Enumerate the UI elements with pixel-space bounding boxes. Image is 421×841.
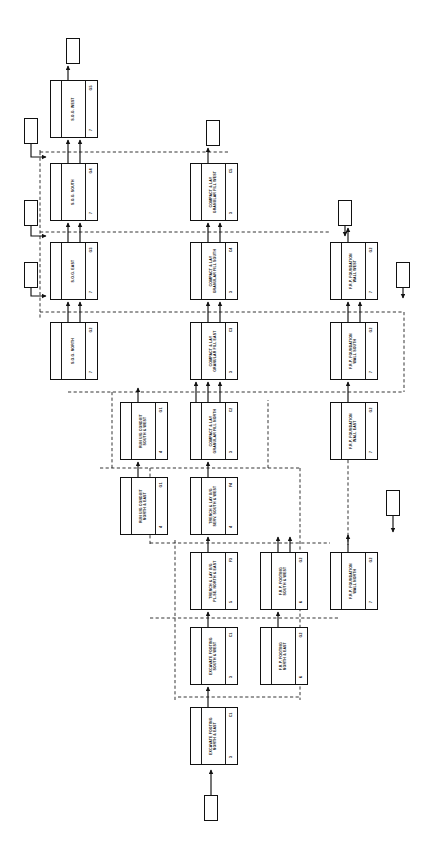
activity-description: TRENCH & LAY U/G SERV. SOUTH & WEST — [201, 478, 225, 534]
activity-node[interactable]: COMPACT & LAY GRANULAR FILL NORTH C2 3 — [190, 402, 238, 460]
activity-node[interactable]: TRENCH & LAY U/G SERV. SOUTH & WEST F4 4 — [190, 477, 238, 535]
activity-duration: 3 — [225, 444, 237, 459]
milestone-node[interactable] — [24, 200, 38, 226]
activity-description: RUN U/G CONDUIT NORTH & EAST — [131, 478, 155, 534]
activity-description: RUN U/G CONDUIT SOUTH & WEST — [131, 403, 155, 459]
activity-node[interactable]: F.R.P. FOUNDATION WALL SOUTH G2 7 — [330, 322, 378, 380]
activity-code: G1 — [155, 403, 167, 418]
activity-duration: 7 — [365, 364, 377, 379]
activity-duration: 7 — [85, 364, 97, 379]
activity-code: C1 — [225, 708, 237, 723]
milestone-node[interactable] — [66, 38, 80, 64]
activity-duration: 5 — [225, 594, 237, 609]
activity-code: C1 — [225, 628, 237, 643]
activity-description: COMPACT & LAY GRANULAR FILL EAST — [201, 323, 225, 379]
activity-node[interactable]: RUN U/G CONDUIT SOUTH & WEST G1 4 — [120, 402, 168, 460]
activity-duration: 3 — [225, 669, 237, 684]
activity-description: F.R.P. FOUNDATION WALL SOUTH — [341, 323, 365, 379]
activity-code: G1 — [155, 478, 167, 493]
activity-duration: 7 — [365, 444, 377, 459]
activity-code: G2 — [295, 628, 307, 643]
activity-description: S.O.G. EAST — [61, 243, 85, 299]
activity-node[interactable]: F.R.P. FOUNDATION WALL EAST G2 7 — [330, 402, 378, 460]
activity-code: G5 — [85, 81, 97, 96]
activity-duration: 4 — [155, 519, 167, 534]
activity-code: G2 — [85, 323, 97, 338]
activity-code: F4 — [225, 478, 237, 493]
milestone-node[interactable] — [24, 262, 38, 288]
activity-duration: 3 — [225, 364, 237, 379]
activity-description: F.R.P. FOOTING SOUTH & WEST — [271, 553, 295, 609]
activity-duration: 6 — [295, 669, 307, 684]
activity-code: G2 — [365, 553, 377, 568]
activity-code: C2 — [225, 403, 237, 418]
activity-node[interactable]: F.R.P. FOOTING SOUTH & WEST G2 6 — [260, 552, 308, 610]
activity-code: G2 — [365, 403, 377, 418]
activity-duration: 4 — [155, 444, 167, 459]
activity-description: COMPACT & LAY GRANULAR FILL WEST — [201, 164, 225, 220]
activity-duration: 6 — [295, 594, 307, 609]
activity-duration: 7 — [365, 594, 377, 609]
activity-node[interactable]: F.R.P. FOOTING NORTH & EAST G2 6 — [260, 627, 308, 685]
activity-node[interactable]: TRENCH & LAY U/G PL.SE. NORTH & EAST F3 … — [190, 552, 238, 610]
milestone-node[interactable] — [204, 795, 218, 821]
activity-description: F.R.P. FOUNDATION WALL WEST — [341, 243, 365, 299]
activity-code: G4 — [85, 164, 97, 179]
activity-description: F.R.P. FOUNDATION WALL NORTH — [341, 553, 365, 609]
activity-code: C5 — [225, 164, 237, 179]
activity-description: S.O.G. NORTH — [61, 323, 85, 379]
activity-node[interactable]: COMPACT & LAY GRANULAR FILL SOUTH C4 3 — [190, 242, 238, 300]
milestone-node[interactable] — [338, 200, 352, 226]
activity-description: F.R.P. FOUNDATION WALL EAST — [341, 403, 365, 459]
activity-description: TRENCH & LAY U/G PL.SE. NORTH & EAST — [201, 553, 225, 609]
activity-duration: 4 — [225, 519, 237, 534]
milestone-node[interactable] — [396, 262, 410, 288]
activity-duration: 3 — [225, 205, 237, 220]
activity-node[interactable]: EXCAVATE FOOTING NORTH & EAST C1 3 — [190, 707, 238, 765]
activity-node[interactable]: S.O.G. EAST G3 7 — [50, 242, 98, 300]
activity-node[interactable]: COMPACT & LAY GRANULAR FILL WEST C5 3 — [190, 163, 238, 221]
activity-duration: 7 — [85, 284, 97, 299]
network-diagram-canvas: S.O.G. WEST G5 7 S.O.G. SOUTH G4 7 S.O.G… — [0, 0, 421, 841]
activity-duration: 3 — [225, 749, 237, 764]
activity-description: S.O.G. SOUTH — [61, 164, 85, 220]
milestone-node[interactable] — [24, 118, 38, 144]
activity-description: S.O.G. WEST — [61, 81, 85, 137]
activity-node[interactable]: COMPACT & LAY GRANULAR FILL EAST C3 3 — [190, 322, 238, 380]
activity-description: EXCAVATE FOOTING NORTH & EAST — [201, 708, 225, 764]
activity-code: G2 — [365, 323, 377, 338]
activity-node[interactable]: RUN U/G CONDUIT NORTH & EAST G1 4 — [120, 477, 168, 535]
activity-description: COMPACT & LAY GRANULAR FILL NORTH — [201, 403, 225, 459]
activity-code: F3 — [225, 553, 237, 568]
activity-code: G2 — [295, 553, 307, 568]
activity-code: C3 — [225, 323, 237, 338]
activity-node[interactable]: EXCAVATE FOOTING SOUTH & WEST C1 3 — [190, 627, 238, 685]
activity-duration: 7 — [365, 284, 377, 299]
activity-node[interactable]: F.R.P. FOUNDATION WALL WEST G2 7 — [330, 242, 378, 300]
activity-code: C4 — [225, 243, 237, 258]
activity-code: G2 — [365, 243, 377, 258]
activity-node[interactable]: S.O.G. NORTH G2 7 — [50, 322, 98, 380]
activity-node[interactable]: S.O.G. WEST G5 7 — [50, 80, 98, 138]
activity-description: COMPACT & LAY GRANULAR FILL SOUTH — [201, 243, 225, 299]
activity-code: G3 — [85, 243, 97, 258]
milestone-node[interactable] — [206, 120, 220, 146]
activity-description: F.R.P. FOOTING NORTH & EAST — [271, 628, 295, 684]
activity-duration: 7 — [85, 205, 97, 220]
activity-duration: 7 — [85, 122, 97, 137]
milestone-node[interactable] — [386, 490, 400, 516]
activity-duration: 3 — [225, 284, 237, 299]
activity-node[interactable]: S.O.G. SOUTH G4 7 — [50, 163, 98, 221]
activity-description: EXCAVATE FOOTING SOUTH & WEST — [201, 628, 225, 684]
activity-node[interactable]: F.R.P. FOUNDATION WALL NORTH G2 7 — [330, 552, 378, 610]
